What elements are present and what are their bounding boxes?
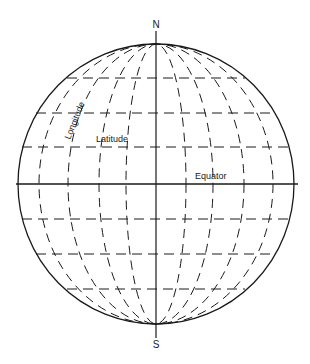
south-label: S [153,339,160,350]
north-label: N [152,19,159,30]
equator-label: Equator [195,171,227,181]
latitude-label: Latitude [96,134,128,144]
longitude-label: Longitude [63,100,87,140]
globe-diagram: N S Longitude Latitude Equator [0,0,310,364]
